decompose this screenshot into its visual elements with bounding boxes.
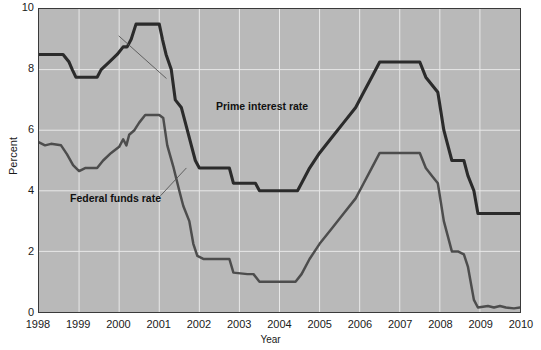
x-tick-label: 2001 [136, 318, 182, 330]
x-tick-label: 2005 [297, 318, 343, 330]
y-axis-title: Percent [7, 121, 19, 191]
x-tick-label: 2002 [176, 318, 222, 330]
x-tick-label: 2009 [458, 318, 504, 330]
x-tick-label: 2010 [498, 318, 541, 330]
gridlines [39, 9, 520, 312]
x-axis-title: Year [0, 334, 541, 345]
fedfunds-rate-annotation-label: Federal funds rate [70, 192, 161, 204]
x-tick-label: 2008 [418, 318, 464, 330]
y-tick-label: 0 [4, 307, 34, 318]
x-tick-label: 2007 [377, 318, 423, 330]
x-tick-label: 1998 [15, 318, 61, 330]
plot-svg [39, 9, 520, 312]
y-tick-label: 8 [4, 63, 34, 74]
x-tick-label: 2006 [337, 318, 383, 330]
interest-rate-chart: 0246810 Percent Prime interest rate Fede… [0, 0, 541, 350]
plot-area [38, 8, 521, 313]
x-tick-label: 2003 [216, 318, 262, 330]
prime-rate-annotation-label: Prime interest rate [216, 100, 308, 112]
y-tick-label: 10 [4, 2, 34, 13]
y-tick-label: 2 [4, 246, 34, 257]
x-tick-label: 1999 [55, 318, 101, 330]
x-tick-label: 2000 [96, 318, 142, 330]
x-tick-label: 2004 [257, 318, 303, 330]
